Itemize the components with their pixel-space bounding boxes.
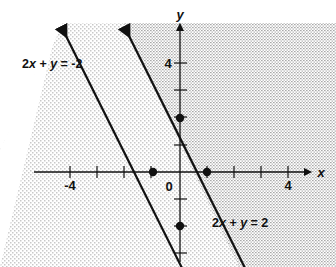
equation-label-right: 2x + y = 2 xyxy=(212,216,268,230)
y-axis-label: y xyxy=(175,7,184,22)
origin-label: 0 xyxy=(165,179,172,194)
eq-left-coef: 2 xyxy=(22,57,29,71)
eq-right-rhs: 2 xyxy=(261,216,268,230)
eq-right-coef: 2 xyxy=(212,216,219,230)
graph-figure: y x -4 4 4 0 2x + y = -2 2x + y = 2 xyxy=(0,0,336,267)
x-tick-label-4: 4 xyxy=(284,178,292,193)
y-tick-label-4: 4 xyxy=(164,56,172,71)
coordinate-plane-svg: y x -4 4 4 0 2x + y = -2 2x + y = 2 xyxy=(0,0,336,267)
svg-text:2x + y = 2: 2x + y = 2 xyxy=(212,216,268,230)
x-tick-label-neg4: -4 xyxy=(64,178,76,193)
eq-left-plus: + xyxy=(36,57,50,71)
eq-left-eq: = xyxy=(57,57,71,71)
eq-right-eq: = xyxy=(247,216,261,230)
point-neg1-0 xyxy=(149,168,157,176)
eq-right-plus: + xyxy=(226,216,240,230)
eq-left-rhs: -2 xyxy=(71,57,82,71)
point-0-2 xyxy=(176,114,184,122)
point-1-0 xyxy=(203,168,211,176)
equation-label-left: 2x + y = -2 xyxy=(22,57,83,71)
svg-text:2x + y = -2: 2x + y = -2 xyxy=(22,57,83,71)
x-axis-label: x xyxy=(316,165,325,180)
point-0-neg2 xyxy=(176,222,184,230)
